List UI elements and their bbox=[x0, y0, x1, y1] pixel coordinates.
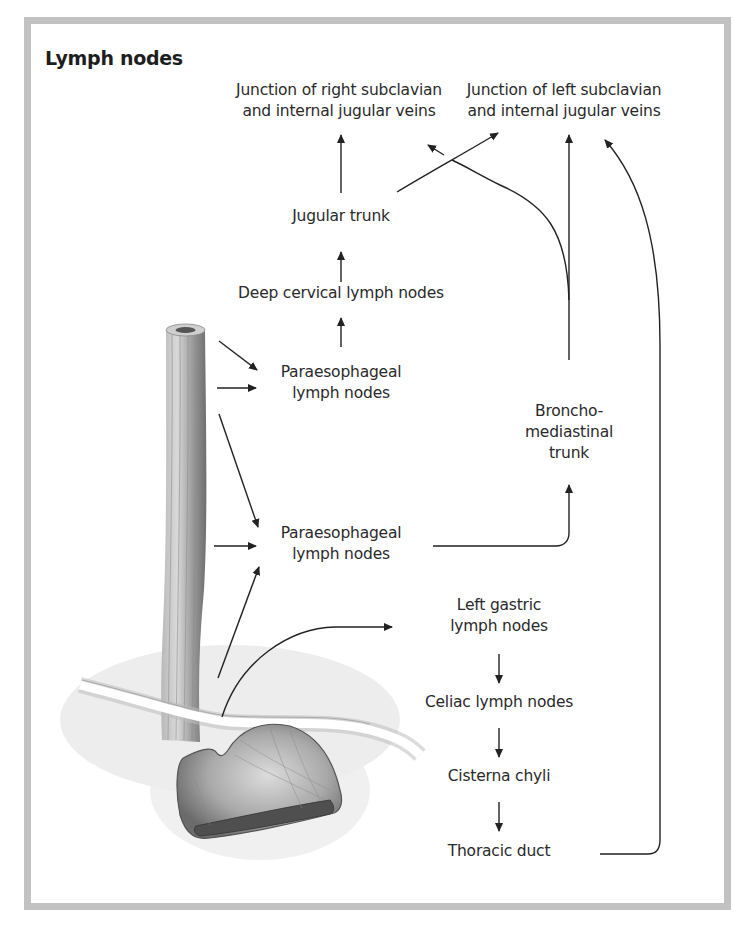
node-label: Junction of left subclavian bbox=[467, 80, 662, 101]
node-label: mediastinal bbox=[525, 422, 613, 443]
node-deep-cervical: Deep cervical lymph nodes bbox=[238, 283, 444, 304]
node-label: trunk bbox=[525, 443, 613, 464]
node-junction-right: Junction of right subclavian and interna… bbox=[236, 80, 442, 122]
node-label: Jugular trunk bbox=[292, 206, 390, 227]
node-paraesophageal-lower: Paraesophageal lymph nodes bbox=[281, 523, 402, 565]
arrow-jugular-to-left-junction bbox=[397, 133, 498, 192]
node-label: Cisterna chyli bbox=[448, 766, 551, 787]
node-label: Left gastric bbox=[450, 595, 548, 616]
illustration-and-arrows bbox=[0, 0, 734, 927]
node-celiac: Celiac lymph nodes bbox=[425, 692, 573, 713]
node-label: Celiac lymph nodes bbox=[425, 692, 573, 713]
node-label: Broncho- bbox=[525, 401, 613, 422]
node-thoracic-duct: Thoracic duct bbox=[448, 841, 551, 862]
node-label: lymph nodes bbox=[281, 544, 402, 565]
node-cisterna-chyli: Cisterna chyli bbox=[448, 766, 551, 787]
arrow-esophagus-to-lower-paraesophageal-1 bbox=[219, 414, 258, 527]
node-jugular-trunk: Jugular trunk bbox=[292, 206, 390, 227]
node-junction-left: Junction of left subclavian and internal… bbox=[467, 80, 662, 122]
arrow-thoracic-to-left-junction bbox=[600, 140, 660, 854]
node-label: lymph nodes bbox=[281, 383, 402, 404]
node-label: and internal jugular veins bbox=[236, 101, 442, 122]
node-left-gastric: Left gastric lymph nodes bbox=[450, 595, 548, 637]
node-label: lymph nodes bbox=[450, 616, 548, 637]
arrow-broncho-to-right-junction bbox=[452, 160, 569, 300]
arrow-paraesophageal-to-broncho bbox=[433, 485, 569, 546]
node-bronchomediastinal: Broncho- mediastinal trunk bbox=[525, 401, 613, 464]
node-label: Junction of right subclavian bbox=[236, 80, 442, 101]
node-label: Paraesophageal bbox=[281, 362, 402, 383]
node-paraesophageal-upper: Paraesophageal lymph nodes bbox=[281, 362, 402, 404]
node-label: Deep cervical lymph nodes bbox=[238, 283, 444, 304]
node-label: and internal jugular veins bbox=[467, 101, 662, 122]
arrow-esophagus-to-upper-paraesophageal-1 bbox=[219, 341, 257, 370]
node-label: Paraesophageal bbox=[281, 523, 402, 544]
node-label: Thoracic duct bbox=[448, 841, 551, 862]
